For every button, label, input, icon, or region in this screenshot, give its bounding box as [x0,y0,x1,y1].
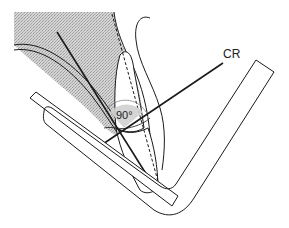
central-ray-label: CR [223,47,241,61]
bisecting-angle-diagram: 90° CR [0,0,289,228]
angle-label: 90° [116,109,133,121]
